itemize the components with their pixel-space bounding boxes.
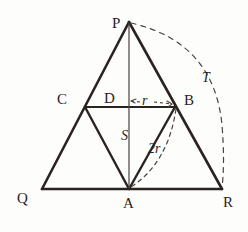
measure-label-S: S [121,129,128,143]
measure-label-r: r [142,94,147,108]
vertex-label-A: A [123,196,134,211]
segment-CA [85,107,129,189]
vertex-label-Q: Q [17,191,28,206]
measure-label-2r: 2r [148,142,160,156]
measure-label-T: T [202,71,210,85]
r-radius-arrow [131,99,172,107]
vertex-label-C: C [57,92,67,107]
vertex-label-R: R [223,195,233,210]
vertex-label-P: P [112,16,120,31]
vertex-label-D: D [104,91,115,106]
geometry-figure: P Q R A B C D r 2r S T [0,0,248,232]
vertex-label-B: B [184,93,194,108]
